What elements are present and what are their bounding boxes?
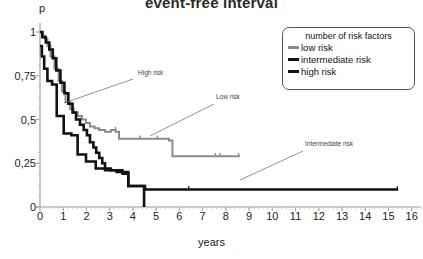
legend-item-intermediate-risk: intermediate risk [288, 54, 409, 65]
annotation-leader-intermediate-risk [240, 151, 303, 180]
legend-item-high-risk: high risk [288, 66, 409, 77]
legend-item-label: intermediate risk [301, 54, 371, 65]
annotation-label-high-risk: High risk [138, 69, 163, 76]
annotation-leader-high-risk [64, 79, 133, 103]
kaplan-meier-chart: event-free interval p years 10,750,50,25… [0, 0, 423, 259]
legend-items: low riskintermediate riskhigh risk [288, 42, 409, 77]
legend-item-low-risk: low risk [288, 42, 409, 53]
legend-item-label: high risk [301, 66, 336, 77]
legend-item-label: low risk [301, 42, 333, 53]
legend: number of risk factors low riskintermedi… [282, 27, 415, 90]
annotation-leader-low-risk [150, 104, 214, 136]
annotation-label-low-risk: Low risk [216, 93, 240, 100]
legend-line-icon [288, 70, 299, 73]
legend-line-icon [288, 46, 299, 48]
legend-line-icon [288, 58, 299, 61]
legend-title: number of risk factors [288, 31, 409, 41]
annotation-label-intermediate-risk: Intermediate risk [305, 140, 353, 147]
